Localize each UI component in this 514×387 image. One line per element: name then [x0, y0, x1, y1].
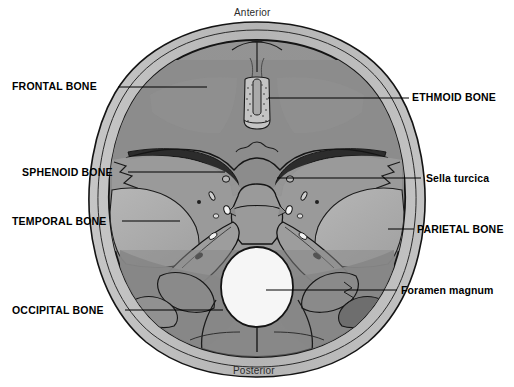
label-temporal-bone: TEMPORAL BONE [12, 216, 107, 227]
label-sella-turcica: Sella turcica [426, 173, 489, 184]
label-sphenoid-bone: SPHENOID BONE [22, 167, 113, 178]
label-frontal-bone: FRONTAL BONE [12, 81, 97, 92]
skull-base-illustration [0, 0, 514, 387]
label-foramen-magnum: Foramen magnum [401, 285, 493, 296]
orientation-label-posterior: Posterior [233, 366, 275, 376]
label-parietal-bone: PARIETAL BONE [417, 224, 504, 235]
skull-base-diagram: Anterior Posterior FRONTAL BONE SPHENOID… [0, 0, 514, 387]
orientation-label-anterior: Anterior [234, 8, 271, 18]
label-occipital-bone: OCCIPITAL BONE [12, 305, 104, 316]
ethmoid-bone-region [244, 77, 270, 129]
label-ethmoid-bone: ETHMOID BONE [412, 92, 496, 103]
foramen-magnum [221, 247, 293, 327]
